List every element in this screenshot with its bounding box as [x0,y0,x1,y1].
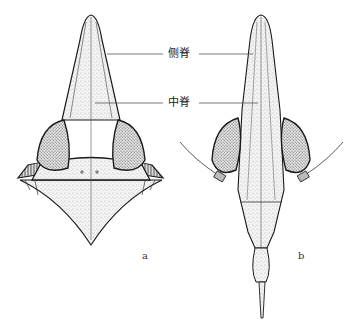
annotation-median-ridge: 中脊 [166,97,192,109]
eye-left-b [212,118,241,172]
eye-right [113,120,145,170]
eye-left [37,120,69,170]
figure-a [18,15,163,245]
stylus [259,282,265,318]
figure-b [180,15,343,318]
abdomen-tip [253,248,270,282]
antenna-right [305,142,343,175]
eye-right-b [281,118,310,172]
panel-label-b: b [298,250,304,261]
annotation-lateral-ridge: 侧脊 [166,48,192,60]
panel-label-a: a [142,250,148,261]
